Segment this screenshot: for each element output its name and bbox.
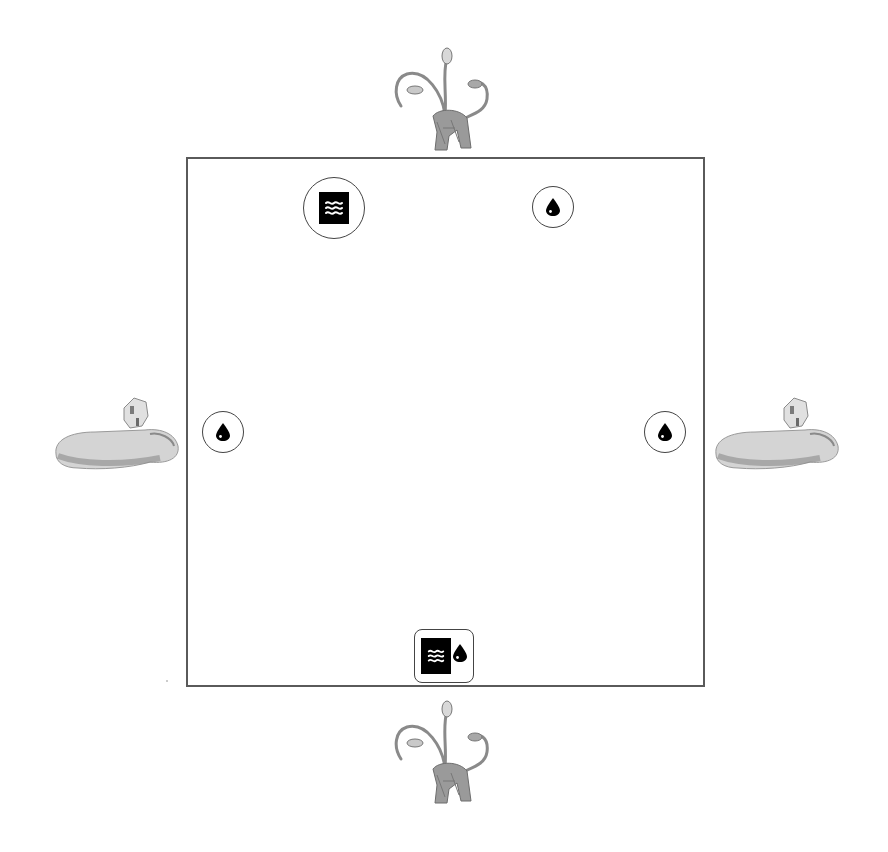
water-drop-token-top[interactable]	[532, 186, 574, 228]
water-drop-icon	[452, 642, 468, 664]
sphinx-monster-left[interactable]	[50, 392, 185, 477]
game-board[interactable]	[186, 157, 705, 687]
water-drop-icon	[657, 422, 673, 442]
dust-speck	[166, 680, 168, 682]
water-drop-token-right[interactable]	[644, 411, 686, 453]
water-drop-icon	[215, 422, 231, 442]
sphinx-monster-right[interactable]	[710, 392, 845, 477]
water-waves-icon	[319, 192, 349, 224]
serpent-beast-monster-top[interactable]	[387, 44, 507, 154]
water-drop-token-left[interactable]	[202, 411, 244, 453]
water-drop-icon	[545, 197, 561, 217]
water-waves-icon	[421, 638, 451, 674]
serpent-beast-monster-bottom[interactable]	[387, 697, 507, 807]
water-tile-token-top[interactable]	[303, 177, 365, 239]
water-combo-token-bottom[interactable]	[414, 629, 474, 683]
